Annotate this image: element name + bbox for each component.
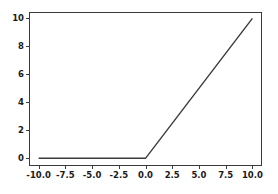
y-tick-label: 2 <box>18 126 24 135</box>
x-tick-label: 7.5 <box>218 171 233 180</box>
x-tick-label: -2.5 <box>109 171 128 180</box>
x-tick-label: -5.0 <box>83 171 102 180</box>
axes-spines <box>30 13 262 166</box>
axes-frame <box>30 13 262 166</box>
y-tick-label: 8 <box>18 42 24 51</box>
x-tick-label: 0.0 <box>138 171 153 180</box>
x-tick-label: 10.0 <box>242 171 263 180</box>
y-tick-label: 4 <box>18 98 24 107</box>
x-tick-label: 5.0 <box>191 171 206 180</box>
x-tick-label: 2.5 <box>165 171 180 180</box>
figure-canvas: -10.0-7.5-5.0-2.50.02.55.07.510.0 024681… <box>0 0 278 194</box>
y-tick-label: 6 <box>18 70 24 79</box>
x-tick-label: -7.5 <box>56 171 75 180</box>
x-tick-label: -10.0 <box>26 171 51 180</box>
y-tick-label: 10 <box>12 14 24 23</box>
y-tick-label: 0 <box>18 154 24 163</box>
plot-area <box>0 0 278 194</box>
